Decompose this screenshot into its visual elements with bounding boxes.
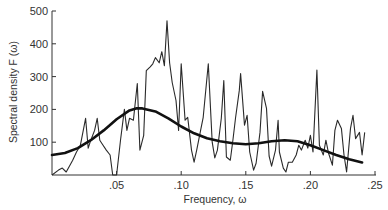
y-tick-label: 500 [30,5,48,17]
plot-area [52,21,365,175]
x-axis: .05.10.15.20.25 Frequency, ω [52,171,383,205]
y-tick-label: 100 [30,136,48,148]
x-axis-title: Frequency, ω [184,193,247,205]
x-ticks: .05.10.15.20.25 [109,171,383,191]
smoothed-density-curve [52,108,362,162]
x-tick-label: .15 [238,179,253,191]
y-axis-title: Spectral density F (ω) [7,41,19,143]
raw-periodogram-line [52,21,365,175]
y-tick-label: 400 [30,38,48,50]
spectral-density-chart: 100200300400500 Spectral density F (ω) .… [0,0,388,210]
y-tick-label: 300 [30,71,48,83]
x-tick-label: .10 [174,179,189,191]
y-axis: 100200300400500 Spectral density F (ω) [7,5,56,175]
x-tick-label: .20 [303,179,318,191]
x-tick-label: .05 [109,179,124,191]
x-tick-label: .25 [367,179,382,191]
y-tick-label: 200 [30,103,48,115]
